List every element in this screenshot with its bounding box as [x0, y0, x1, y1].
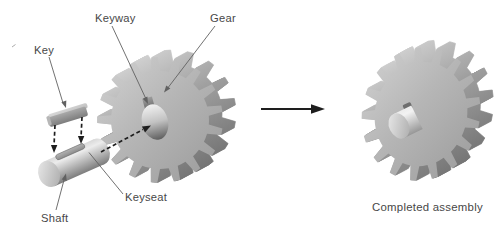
keyway-label: Keyway — [95, 12, 136, 24]
shaft-label: Shaft — [41, 212, 69, 224]
keyseat-label: Keyseat — [125, 191, 168, 203]
gear-assembly-figure: Key Keyway Gear Keyseat Shaft Completed … — [0, 0, 495, 230]
key-label: Key — [34, 44, 54, 56]
gear-assembly-diagram: Key Keyway Gear Keyseat Shaft Completed … — [0, 0, 495, 230]
completed-assembly-caption: Completed assembly — [372, 201, 483, 213]
gear-label: Gear — [210, 12, 236, 24]
